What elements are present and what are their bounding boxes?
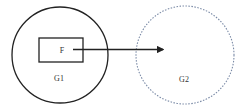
node-g1: G1 xyxy=(12,7,108,103)
g1-circle xyxy=(12,7,108,103)
node-g2: G2 xyxy=(136,6,234,104)
g1-label: G1 xyxy=(54,74,64,83)
diagram-canvas: G1 F G2 xyxy=(0,0,247,109)
g2-circle xyxy=(136,6,234,104)
f-label: F xyxy=(60,46,65,55)
g2-label: G2 xyxy=(179,75,189,84)
